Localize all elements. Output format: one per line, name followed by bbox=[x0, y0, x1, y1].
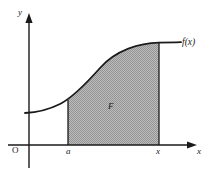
shaded-region-label: F bbox=[108, 102, 114, 111]
y-axis-label: y bbox=[18, 8, 22, 17]
origin-label: O bbox=[12, 146, 19, 155]
x-tick-label-x: x bbox=[156, 147, 160, 156]
x-tick-label-a: a bbox=[66, 147, 71, 156]
shaded-area-region bbox=[68, 43, 159, 145]
figure-canvas bbox=[0, 0, 209, 173]
x-axis-label: x bbox=[197, 147, 201, 156]
function-curve-label: f(x) bbox=[182, 38, 195, 48]
area-under-curve-figure: y x O a x F f(x) bbox=[0, 0, 209, 173]
